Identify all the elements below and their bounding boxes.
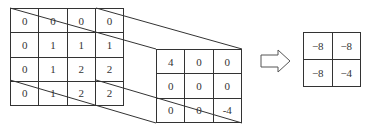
kernel-matrix: 4 0 0 0 0 0 0 0 -4 bbox=[156, 49, 242, 123]
output-matrix: −8 −8 −8 −4 bbox=[303, 32, 361, 87]
matrix-row: 0 1 2 2 bbox=[11, 57, 124, 81]
matrix-cell: 2 bbox=[95, 57, 123, 81]
matrix-cell: 0 bbox=[157, 98, 185, 122]
right-arrow-icon bbox=[261, 50, 290, 72]
matrix-cell: −8 bbox=[304, 33, 333, 60]
matrix-cell: 2 bbox=[67, 57, 95, 81]
matrix-cell: −4 bbox=[332, 60, 361, 87]
matrix-cell: 1 bbox=[67, 33, 95, 57]
matrix-row: 0 0 0 0 bbox=[11, 9, 124, 33]
matrix-cell: 0 bbox=[67, 9, 95, 33]
matrix-cell: 1 bbox=[95, 33, 123, 57]
matrix-cell: 0 bbox=[157, 74, 185, 98]
matrix-cell: 0 bbox=[213, 50, 241, 74]
matrix-cell: 0 bbox=[185, 98, 213, 122]
matrix-row: 0 1 1 1 bbox=[11, 33, 124, 57]
matrix-cell: 0 bbox=[185, 50, 213, 74]
matrix-cell: 0 bbox=[185, 74, 213, 98]
matrix-cell: 0 bbox=[213, 74, 241, 98]
matrix-cell: 0 bbox=[11, 81, 39, 105]
matrix-row: 4 0 0 bbox=[157, 50, 242, 74]
matrix-cell: 0 bbox=[11, 57, 39, 81]
matrix-cell: -4 bbox=[213, 98, 241, 122]
matrix-cell: 2 bbox=[67, 81, 95, 105]
matrix-cell: −8 bbox=[304, 60, 333, 87]
input-matrix: 0 0 0 0 0 1 1 1 0 1 2 2 0 1 2 2 bbox=[10, 8, 124, 106]
matrix-cell: 1 bbox=[39, 57, 67, 81]
matrix-cell: 0 bbox=[11, 9, 39, 33]
matrix-cell: −8 bbox=[332, 33, 361, 60]
matrix-cell: 1 bbox=[39, 81, 67, 105]
matrix-row: −8 −4 bbox=[304, 60, 361, 87]
matrix-cell: 0 bbox=[39, 9, 67, 33]
matrix-cell: 0 bbox=[95, 9, 123, 33]
matrix-row: 0 0 0 bbox=[157, 74, 242, 98]
matrix-cell: 1 bbox=[39, 33, 67, 57]
matrix-row: 0 1 2 2 bbox=[11, 81, 124, 105]
matrix-row: −8 −8 bbox=[304, 33, 361, 60]
matrix-row: 0 0 -4 bbox=[157, 98, 242, 122]
matrix-cell: 2 bbox=[95, 81, 123, 105]
matrix-cell: 0 bbox=[11, 33, 39, 57]
matrix-cell: 4 bbox=[157, 50, 185, 74]
